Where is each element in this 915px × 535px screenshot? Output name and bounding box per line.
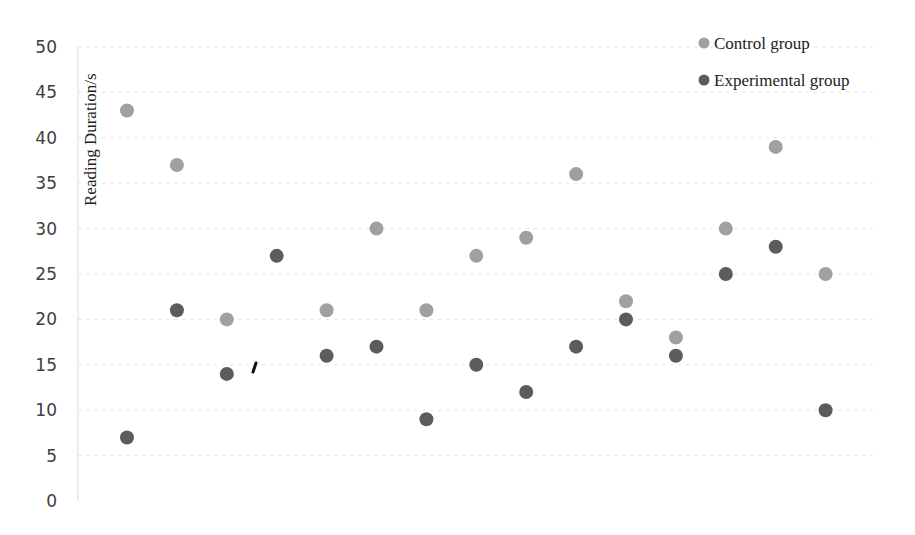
y-tick-label: 0 (46, 491, 57, 511)
experimental-point (419, 412, 433, 426)
y-tick-label: 40 (35, 128, 57, 148)
y-tick-label: 45 (35, 82, 57, 102)
experimental-point (320, 349, 334, 363)
control-point (469, 249, 483, 263)
control-point (769, 140, 783, 154)
experimental-point (519, 385, 533, 399)
legend-label-control: Control group (714, 34, 810, 53)
experimental-point (469, 358, 483, 372)
experimental-point (819, 403, 833, 417)
control-point (370, 222, 384, 236)
experimental-point (270, 249, 284, 263)
control-point (619, 294, 633, 308)
y-tick-label: 25 (35, 264, 57, 284)
y-axis-ticks: 05101520253035404550 (35, 37, 57, 511)
y-tick-label: 50 (35, 37, 57, 57)
control-point (220, 312, 234, 326)
y-axis-label: Reading Duration/s (81, 73, 100, 206)
control-point (120, 104, 134, 118)
experimental-point (769, 240, 783, 254)
experimental-point (170, 303, 184, 317)
control-point (170, 158, 184, 172)
legend-marker-control-icon (699, 38, 710, 49)
control-point (419, 303, 433, 317)
legend-item-control[interactable]: Control group (699, 34, 810, 53)
y-tick-label: 15 (35, 355, 57, 375)
control-point (819, 267, 833, 281)
y-tick-label: 20 (35, 309, 57, 329)
legend: Control group Experimental group (699, 34, 850, 90)
stray-mark (253, 363, 256, 372)
control-point (719, 222, 733, 236)
data-points (120, 104, 833, 445)
control-point (320, 303, 334, 317)
y-tick-label: 10 (35, 400, 57, 420)
legend-label-experimental: Experimental group (714, 71, 850, 90)
legend-marker-experimental-icon (699, 75, 710, 86)
experimental-point (669, 349, 683, 363)
experimental-point (569, 340, 583, 354)
experimental-point (719, 267, 733, 281)
y-tick-label: 5 (46, 446, 57, 466)
experimental-point (370, 340, 384, 354)
experimental-point (120, 430, 134, 444)
y-tick-label: 35 (35, 173, 57, 193)
legend-item-experimental[interactable]: Experimental group (699, 71, 850, 90)
scatter-chart: 05101520253035404550 Reading Duration/s … (0, 0, 915, 535)
y-tick-label: 30 (35, 219, 57, 239)
control-point (569, 167, 583, 181)
control-point (519, 231, 533, 245)
experimental-point (619, 312, 633, 326)
control-point (669, 331, 683, 345)
experimental-point (220, 367, 234, 381)
